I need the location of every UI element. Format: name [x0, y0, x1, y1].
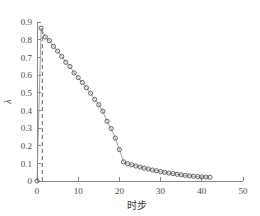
line-chart-canvas: 01020304050 00.10.20.30.40.50.60.70.80.9… — [0, 0, 260, 216]
y-axis-ticks: 00.10.20.30.40.50.60.70.80.9 — [21, 17, 41, 186]
x-axis-label: 时步 — [127, 200, 147, 211]
x-tick-label: 50 — [239, 186, 249, 196]
y-tick-label: 0.5 — [21, 88, 33, 98]
y-tick-label: 0 — [28, 176, 33, 186]
x-tick-label: 10 — [74, 186, 84, 196]
data-series-group — [35, 26, 212, 183]
series-line — [37, 28, 210, 181]
x-tick-label: 0 — [35, 186, 40, 196]
x-tick-label: 20 — [115, 186, 125, 196]
x-tick-label: 30 — [156, 186, 166, 196]
x-axis-ticks: 01020304050 — [35, 177, 248, 196]
y-tick-label: 0.9 — [21, 17, 33, 27]
chart-figure: 01020304050 00.10.20.30.40.50.60.70.80.9… — [0, 0, 260, 216]
y-tick-label: 0.3 — [21, 123, 33, 133]
y-tick-label: 0.2 — [21, 141, 32, 151]
y-tick-label: 0.7 — [21, 53, 33, 63]
x-tick-label: 40 — [197, 186, 207, 196]
y-tick-label: 0.8 — [21, 35, 33, 45]
axes-group — [37, 22, 243, 181]
y-tick-label: 0.6 — [21, 70, 33, 80]
y-axis-label: λ — [2, 99, 13, 105]
y-tick-label: 0.4 — [21, 106, 33, 116]
y-tick-label: 0.1 — [21, 159, 32, 169]
